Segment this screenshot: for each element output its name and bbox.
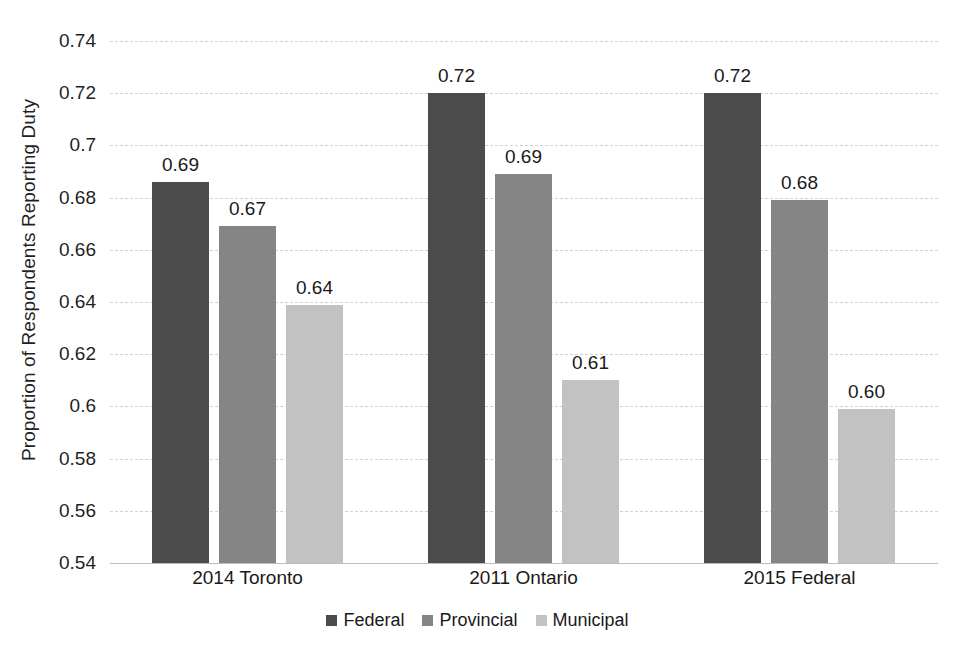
- plot-area: 0.690.670.640.720.690.610.720.680.60: [110, 41, 938, 563]
- gridline: [110, 93, 938, 94]
- gridline: [110, 41, 938, 42]
- y-axis-tick-label: 0.56: [59, 500, 96, 522]
- bar-value-label: 0.69: [162, 154, 199, 176]
- bar-value-label: 0.64: [296, 277, 333, 299]
- bar-value-label: 0.68: [781, 172, 818, 194]
- bar: [428, 93, 485, 563]
- bar-value-label: 0.72: [438, 65, 475, 87]
- legend-label: Municipal: [553, 610, 629, 631]
- x-axis-category-label: 2014 Toronto: [192, 567, 303, 589]
- legend-swatch-icon: [422, 615, 433, 626]
- legend-item[interactable]: Federal: [326, 610, 404, 631]
- y-axis-tick-labels: 0.740.720.70.680.660.640.620.60.580.560.…: [0, 41, 104, 563]
- bar-value-label: 0.67: [229, 198, 266, 220]
- legend-swatch-icon: [326, 615, 337, 626]
- bar: [219, 226, 276, 563]
- bar-value-label: 0.69: [505, 146, 542, 168]
- bar: [152, 182, 209, 563]
- bar-value-label: 0.72: [714, 65, 751, 87]
- legend-item[interactable]: Provincial: [422, 610, 517, 631]
- y-axis-tick-label: 0.72: [59, 82, 96, 104]
- legend-label: Provincial: [439, 610, 517, 631]
- y-axis-tick-label: 0.68: [59, 187, 96, 209]
- legend-label: Federal: [343, 610, 404, 631]
- y-axis-tick-label: 0.7: [70, 134, 96, 156]
- bar-chart: Proportion of Respondents Reporting Duty…: [0, 0, 955, 659]
- y-axis-tick-label: 0.6: [70, 395, 96, 417]
- legend-swatch-icon: [536, 615, 547, 626]
- bar: [771, 200, 828, 563]
- x-axis-category-labels: 2014 Toronto2011 Ontario2015 Federal: [110, 567, 938, 597]
- bar-value-label: 0.61: [572, 352, 609, 374]
- y-axis-tick-label: 0.58: [59, 448, 96, 470]
- y-axis-tick-label: 0.64: [59, 291, 96, 313]
- bar: [495, 174, 552, 563]
- bar: [286, 305, 343, 563]
- bar: [562, 380, 619, 563]
- x-axis-category-label: 2011 Ontario: [469, 567, 577, 589]
- y-axis-tick-label: 0.74: [59, 30, 96, 52]
- bar-value-label: 0.60: [848, 381, 885, 403]
- y-axis-tick-label: 0.62: [59, 343, 96, 365]
- x-axis-category-label: 2015 Federal: [744, 567, 856, 589]
- gridline: [110, 563, 938, 564]
- chart-legend: FederalProvincialMunicipal: [0, 610, 955, 631]
- y-axis-tick-label: 0.54: [59, 552, 96, 574]
- bar: [704, 93, 761, 563]
- bar: [838, 409, 895, 563]
- y-axis-tick-label: 0.66: [59, 239, 96, 261]
- legend-item[interactable]: Municipal: [536, 610, 629, 631]
